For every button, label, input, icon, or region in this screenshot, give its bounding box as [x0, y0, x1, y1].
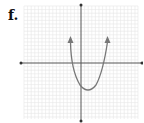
arrow-up-left-icon	[68, 36, 74, 43]
y-axis-bottom-end	[80, 120, 83, 123]
x-axis-right-end	[141, 62, 144, 65]
x-axis-left-end	[20, 62, 23, 65]
coordinate-graph	[0, 0, 143, 123]
y-axis-top-end	[80, 4, 83, 7]
